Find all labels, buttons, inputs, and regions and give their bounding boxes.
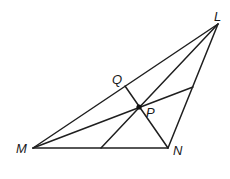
segment-m-to-ln (33, 87, 193, 148)
label-q: Q (112, 72, 122, 87)
label-l: L (214, 9, 221, 24)
point-p-dot (136, 104, 141, 109)
label-m: M (16, 141, 27, 156)
label-n: N (173, 143, 183, 158)
side-nl (168, 24, 218, 148)
triangle-diagram: L Q P M N (0, 0, 230, 179)
label-p: P (146, 105, 155, 120)
